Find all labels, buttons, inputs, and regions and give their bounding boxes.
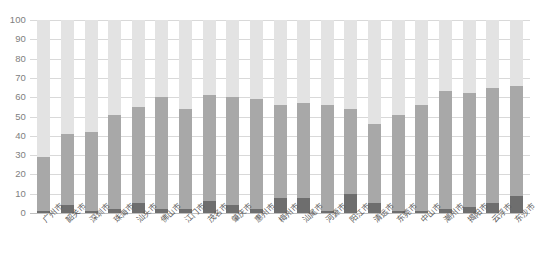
stacked-bar[interactable]: [61, 20, 74, 213]
stacked-bar-chart: 1009080706050403020100 广州市韶关市深圳市珠海市汕头市佛山…: [0, 0, 535, 267]
bar-column: [79, 20, 103, 213]
bar-column: [245, 20, 269, 213]
x-axis-label-cell: 汕头市: [127, 213, 151, 267]
bar-segment-top: [132, 20, 145, 107]
bar-column: [505, 20, 529, 213]
bar-segment-middle: [37, 157, 50, 211]
bar-segment-middle: [510, 86, 523, 196]
stacked-bar[interactable]: [463, 20, 476, 213]
x-axis-label-cell: 肇庆市: [221, 213, 245, 267]
bar-segment-top: [344, 20, 357, 109]
bar-segment-top: [37, 20, 50, 157]
bar-column: [339, 20, 363, 213]
stacked-bar[interactable]: [392, 20, 405, 213]
bar-series-container: [30, 20, 530, 213]
stacked-bar[interactable]: [439, 20, 452, 213]
bar-segment-middle: [415, 105, 428, 211]
bar-segment-top: [297, 20, 310, 103]
y-axis-tick-label: 60: [0, 92, 26, 102]
stacked-bar[interactable]: [344, 20, 357, 213]
bar-segment-top: [155, 20, 168, 97]
bar-segment-top: [486, 20, 499, 88]
y-axis-tick-label: 0: [0, 208, 26, 218]
bar-column: [103, 20, 127, 213]
bar-segment-top: [439, 20, 452, 91]
bar-column: [221, 20, 245, 213]
y-axis-tick-label: 30: [0, 150, 26, 160]
bar-column: [363, 20, 387, 213]
bar-segment-top: [226, 20, 239, 97]
bar-column: [197, 20, 221, 213]
y-axis: 1009080706050403020100: [0, 14, 26, 219]
bar-segment-middle: [179, 109, 192, 209]
stacked-bar[interactable]: [132, 20, 145, 213]
y-axis-tick-label: 80: [0, 54, 26, 64]
bar-column: [174, 20, 198, 213]
stacked-bar[interactable]: [510, 20, 523, 213]
x-axis-label-cell: 河源市: [316, 213, 340, 267]
stacked-bar[interactable]: [250, 20, 263, 213]
x-axis-label-cell: 中山市: [410, 213, 434, 267]
bar-segment-top: [463, 20, 476, 93]
bar-segment-middle: [463, 93, 476, 207]
stacked-bar[interactable]: [108, 20, 121, 213]
stacked-bar[interactable]: [486, 20, 499, 213]
bar-segment-top: [368, 20, 381, 124]
y-axis-tick-label: 20: [0, 170, 26, 180]
x-axis-label-cell: 揭阳市: [457, 213, 481, 267]
bar-segment-middle: [226, 97, 239, 205]
x-axis-label-cell: 广州市: [32, 213, 56, 267]
stacked-bar[interactable]: [368, 20, 381, 213]
x-axis-labels: 广州市韶关市深圳市珠海市汕头市佛山市江门市茂名市肇庆市惠州市梅州市汕尾市河源市阳…: [30, 213, 530, 267]
bar-segment-top: [179, 20, 192, 109]
x-axis-label-cell: 东沙市: [505, 213, 529, 267]
y-axis-tick-label: 40: [0, 131, 26, 141]
bar-column: [32, 20, 56, 213]
y-axis-tick-label: 100: [0, 15, 26, 25]
x-axis-label-cell: 汕尾市: [292, 213, 316, 267]
bar-column: [56, 20, 80, 213]
bar-segment-middle: [132, 107, 145, 204]
bar-segment-middle: [321, 105, 334, 211]
x-axis-label-cell: 深圳市: [79, 213, 103, 267]
x-axis-label-cell: 韶关市: [56, 213, 80, 267]
x-axis-label-cell: 清远市: [363, 213, 387, 267]
y-axis-tick-label: 70: [0, 73, 26, 83]
y-axis-tick-label: 10: [0, 189, 26, 199]
x-axis-label-cell: 梅州市: [268, 213, 292, 267]
stacked-bar[interactable]: [415, 20, 428, 213]
stacked-bar[interactable]: [85, 20, 98, 213]
bar-segment-top: [392, 20, 405, 115]
x-axis-label-cell: 潮州市: [434, 213, 458, 267]
x-axis-label-cell: 珠海市: [103, 213, 127, 267]
stacked-bar[interactable]: [179, 20, 192, 213]
stacked-bar[interactable]: [297, 20, 310, 213]
bar-column: [268, 20, 292, 213]
bar-column: [434, 20, 458, 213]
bar-segment-middle: [274, 105, 287, 198]
bar-segment-middle: [439, 91, 452, 209]
bar-column: [410, 20, 434, 213]
bar-segment-middle: [368, 124, 381, 203]
bar-segment-top: [250, 20, 263, 99]
bar-segment-middle: [108, 115, 121, 210]
bar-segment-top: [85, 20, 98, 132]
bar-column: [150, 20, 174, 213]
stacked-bar[interactable]: [274, 20, 287, 213]
y-axis-tick-label: 90: [0, 35, 26, 45]
bar-column: [292, 20, 316, 213]
bar-column: [457, 20, 481, 213]
x-axis-label-cell: 佛山市: [150, 213, 174, 267]
stacked-bar[interactable]: [226, 20, 239, 213]
bar-segment-middle: [250, 99, 263, 209]
bar-segment-top: [61, 20, 74, 134]
bar-column: [127, 20, 151, 213]
bar-segment-top: [203, 20, 216, 95]
stacked-bar[interactable]: [203, 20, 216, 213]
stacked-bar[interactable]: [155, 20, 168, 213]
bar-segment-middle: [155, 97, 168, 209]
stacked-bar[interactable]: [37, 20, 50, 213]
bar-segment-top: [321, 20, 334, 105]
stacked-bar[interactable]: [321, 20, 334, 213]
x-axis-label-cell: 云浮市: [481, 213, 505, 267]
